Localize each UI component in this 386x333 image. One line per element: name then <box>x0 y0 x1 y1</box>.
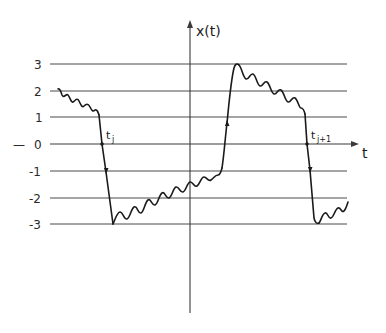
tj1-crossing-dot <box>305 142 309 146</box>
t-axis-arrow-icon <box>351 141 359 147</box>
tj-annotation: t j <box>106 129 114 144</box>
curve-segment-decline-1 <box>58 89 99 115</box>
curve-segment-decline-2 <box>239 65 305 114</box>
curve-segment-steep-rise <box>222 64 239 168</box>
y-tick-labels: 3 2 1 — 0 -1 -2 -3 <box>13 58 43 232</box>
tick-label-3: 3 <box>34 58 42 72</box>
up-arrow-icon <box>225 120 230 126</box>
tj-crossing-dot <box>100 142 104 146</box>
tick-label-1: 1 <box>35 111 43 125</box>
y-axis-label: x(t) <box>196 23 221 39</box>
down-arrow-icon-2 <box>308 167 313 173</box>
tj1-label: t <box>311 129 316 142</box>
tj1-annotation: t j+1 <box>311 129 331 144</box>
tick-label-2: 2 <box>34 85 42 99</box>
curve-segment-rise-2 <box>319 202 348 223</box>
tj1-subscript: j+1 <box>316 135 331 144</box>
oscillation-diagram: 3 2 1 — 0 -1 -2 -3 x(t) t t j <box>0 0 386 333</box>
tj-label: t <box>106 129 111 142</box>
tick-label-neg1: -1 <box>29 165 41 179</box>
tick-label-0: 0 <box>34 138 42 152</box>
x-axis-label: t <box>362 145 368 161</box>
x-axis-arrow-icon <box>187 20 193 28</box>
crossing-markers <box>100 120 312 174</box>
curve-segment-rise-1 <box>113 168 222 224</box>
tick-label-neg2: -2 <box>29 192 41 206</box>
tick-label-neg3: -3 <box>29 218 41 232</box>
zero-dash: — <box>13 138 25 152</box>
tj-subscript: j <box>111 135 114 144</box>
